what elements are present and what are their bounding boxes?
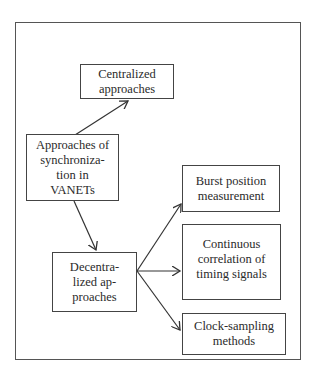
node-continuous-correlation: Continuous correlation of timing signals [182,224,281,300]
node-label-line: Decentra- [70,260,119,275]
node-label-line: VANETs [36,183,109,198]
node-label-line: timing signals [196,267,267,282]
node-clock-sampling-methods: Clock-sampling methods [182,313,286,355]
node-root-synchronization-approaches: Approaches of synchroniza- tion in VANET… [26,134,119,201]
node-label-line: correlation of [196,252,267,267]
node-label-line: Centralized [98,67,156,82]
node-centralized-approaches: Centralized approaches [80,64,174,99]
node-label-line: Approaches of [36,138,109,153]
node-label-line: Clock-sampling [194,319,274,334]
node-label-line: lized ap- [70,275,119,290]
node-decentralized-approaches: Decentra- lized ap- proaches [52,252,137,312]
node-label-line: methods [194,334,274,349]
node-label-line: Burst position [196,174,267,189]
node-label-line: approaches [98,82,156,97]
node-label-line: measurement [196,189,267,204]
node-label-line: synchroniza- [36,153,109,168]
node-label-line: proaches [70,290,119,305]
node-burst-position-measurement: Burst position measurement [182,165,280,212]
node-label-line: tion in [36,168,109,183]
node-label-line: Continuous [196,237,267,252]
